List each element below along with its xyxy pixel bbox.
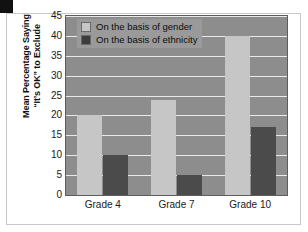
legend-label-gender: On the basis of gender (96, 22, 192, 32)
chart-legend: On the basis of gender On the basis of e… (77, 19, 202, 48)
x-tick-label-grade-10: Grade 10 (229, 199, 271, 211)
bar-grade-10-gender (225, 36, 250, 195)
x-axis-tick-labels: Grade 4Grade 7Grade 10 (65, 199, 288, 215)
y-tick-label-35: 35 (51, 51, 62, 61)
y-tick-label-0: 0 (56, 190, 62, 200)
y-axis-title-line-1: Mean Percentage Saying (21, 0, 32, 151)
bar-grade-4-gender (77, 115, 102, 195)
legend-item-ethnicity: On the basis of ethnicity (81, 35, 197, 45)
x-tick-label-grade-7: Grade 7 (158, 199, 194, 211)
plot-area: On the basis of gender On the basis of e… (65, 15, 288, 196)
bar-grade-7-gender (151, 100, 176, 195)
y-tick-label-45: 45 (51, 11, 62, 21)
y-tick-label-25: 25 (51, 91, 62, 101)
y-tick-label-40: 40 (51, 31, 62, 41)
bar-grade-10-ethnicity (251, 127, 276, 195)
bar-grade-7-ethnicity (177, 175, 202, 195)
y-tick-label-5: 5 (56, 170, 62, 180)
y-axis-tick-labels: 051015202530354045 (40, 15, 62, 196)
bar-chart-figure: Mean Percentage Saying “It’s OK” to Excl… (0, 0, 308, 232)
gridline-0 (66, 195, 287, 196)
legend-label-ethnicity: On the basis of ethnicity (96, 35, 197, 45)
legend-swatch-gender-icon (81, 22, 91, 32)
y-tick-label-20: 20 (51, 110, 62, 120)
bar-grade-4-ethnicity (103, 155, 128, 195)
y-tick-label-30: 30 (51, 71, 62, 81)
y-tick-label-10: 10 (51, 150, 62, 160)
x-tick-label-grade-4: Grade 4 (85, 199, 121, 211)
y-tick-label-15: 15 (51, 130, 62, 140)
legend-swatch-ethnicity-icon (81, 35, 91, 45)
legend-item-gender: On the basis of gender (81, 22, 197, 32)
